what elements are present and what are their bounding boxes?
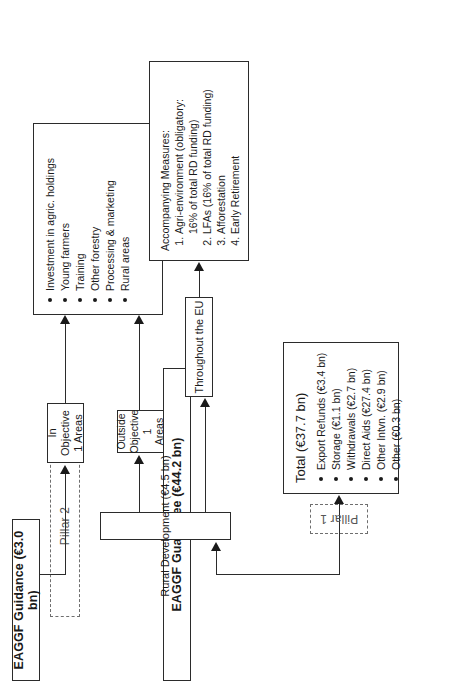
connector-rd-to-throughout-eu [205, 405, 206, 512]
connector-guarantee-vertical [216, 574, 339, 575]
arrowhead-rd-to-outside-obj1 [134, 455, 144, 464]
arrowhead-guidance-to-obj1 [60, 465, 70, 474]
node-in-objective-1-areas: In Objective 1 Areas [47, 403, 84, 463]
diagram-canvas-wrapper: EAGGF Guidance (€3.0 bn) EAGGF Guarantee… [0, 0, 449, 695]
diagram-canvas: EAGGF Guidance (€3.0 bn) EAGGF Guarantee… [0, 0, 449, 695]
node-rural-development-label: Rural Development (€4.5 bn) [159, 455, 172, 596]
list-item: Processing & marketing [103, 134, 118, 304]
list-item: Export Refunds (€3.4 bn) [314, 353, 329, 483]
measures-list-box: Investment in agric. holdings Young farm… [33, 123, 163, 315]
list-item: Other Intvn. (€2.9 bn) [374, 353, 389, 483]
list-item: Storage (€1.1 bn) [329, 353, 344, 483]
connector-guidance-stub [40, 574, 65, 575]
list-item: Training [73, 134, 88, 304]
node-in-objective-1-line-2: 1 Areas [72, 404, 85, 462]
node-throughout-the-eu: Throughout the EU [185, 297, 213, 397]
node-outside-obj1-line-2: Objective 1 [128, 410, 153, 454]
accompanying-measures-heading: Accompanying Measures: [158, 71, 172, 251]
arrowhead-rd-to-throughout-eu [200, 398, 210, 407]
arrowhead-outside-obj1-to-measures [134, 315, 144, 324]
list-item: Investment in agric. holdings [43, 134, 58, 304]
accompanying-item-1-line-2: 16% of total RD funding) [187, 120, 199, 234]
arrowhead-guarantee-to-rd [211, 542, 221, 551]
total-box-list: Export Refunds (€3.4 bn) Storage (€1.1 b… [314, 353, 403, 483]
total-box: Total (€37.7 bn) Export Refunds (€3.4 bn… [283, 342, 399, 494]
node-outside-obj1-line-1: Outside [115, 410, 128, 454]
pillar-label-1-vertical: Pillar 1 [320, 512, 358, 526]
connector-guarantee-to-rd [216, 549, 217, 575]
list-item: Early Retirement [228, 71, 242, 234]
accompanying-measures-list: Agri-environment (obligatory: 16% of tot… [172, 71, 242, 251]
node-outside-obj1-line-3: Areas [153, 410, 166, 454]
list-item: LFAs (16% of total RD funding) [200, 71, 214, 234]
node-throughout-the-eu-label: Throughout the EU [193, 301, 206, 394]
list-item: Agri-environment (obligatory: 16% of tot… [172, 71, 200, 234]
list-item: Direct Aids (€27.4 bn) [359, 353, 374, 483]
accompanying-measures-box: Accompanying Measures: Agri-environment … [149, 61, 249, 261]
list-item: Afforestation [214, 71, 228, 234]
list-item: Withdrawals (€2.7 bn) [344, 353, 359, 483]
arrowhead-eu-to-accompanying [194, 262, 204, 271]
connector-outside-obj1-to-measures [139, 322, 140, 410]
connector-eu-to-accompanying [199, 269, 200, 297]
list-item: Other forestry [88, 134, 103, 304]
measures-list: Investment in agric. holdings Young farm… [43, 134, 132, 304]
connector-obj1-to-measures [65, 322, 66, 403]
source-box-eaggf-guidance: EAGGF Guidance (€3.0 bn) [12, 519, 40, 681]
source-label-guidance: EAGGF Guidance (€3.0 bn) [12, 520, 40, 680]
connector-rd-to-outside-obj1 [139, 462, 140, 512]
list-item: Young farmers [58, 134, 73, 304]
arrowhead-guarantee-to-total [334, 495, 344, 504]
arrowhead-obj1-to-measures [60, 315, 70, 324]
node-rural-development: Rural Development (€4.5 bn) [100, 512, 231, 540]
node-in-objective-1-line-1: In Objective [46, 404, 72, 462]
list-item: Rural areas [118, 134, 133, 304]
pillar-box-1-outline: Pillar 1 [310, 504, 368, 534]
node-outside-objective-1-areas: Outside Objective 1 Areas [117, 410, 164, 453]
list-item: Other (€0.3 bn) [389, 353, 404, 483]
connector-guidance-to-obj1 [65, 472, 66, 575]
total-box-heading: Total (€37.7 bn) [293, 353, 308, 483]
accompanying-item-1-line-1: Agri-environment (obligatory: [173, 99, 185, 234]
